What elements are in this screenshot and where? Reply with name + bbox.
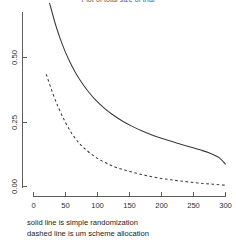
y-tick-label-0.00: 0.00 [10, 179, 19, 194]
x-tick-label-150: 150 [123, 201, 136, 210]
plot-container: Plot of total size of trial 0.50 0.25 0.… [0, 0, 236, 247]
legend-caption-solid: solid line is simple randomization [27, 218, 227, 229]
x-tick-label-200: 200 [155, 201, 168, 210]
x-tick-label-50: 50 [61, 201, 69, 210]
series-line-urn-scheme-allocation [46, 74, 225, 185]
y-tick-label-0.25: 0.25 [10, 115, 19, 130]
y-tick-label-0.50: 0.50 [10, 50, 19, 65]
legend-caption-dashed: dashed line is um scheme allocation [27, 229, 227, 240]
x-tick-label-250: 250 [187, 201, 200, 210]
chart-canvas: 0.50 0.25 0.00 0 50 100 150 200 250 300 [0, 0, 236, 247]
x-tick-label-0: 0 [31, 201, 35, 210]
x-tick-label-100: 100 [91, 201, 104, 210]
legend-caption: solid line is simple randomization dashe… [27, 218, 227, 239]
x-tick-label-300: 300 [219, 201, 232, 210]
series-line-simple-randomization [50, 3, 226, 165]
